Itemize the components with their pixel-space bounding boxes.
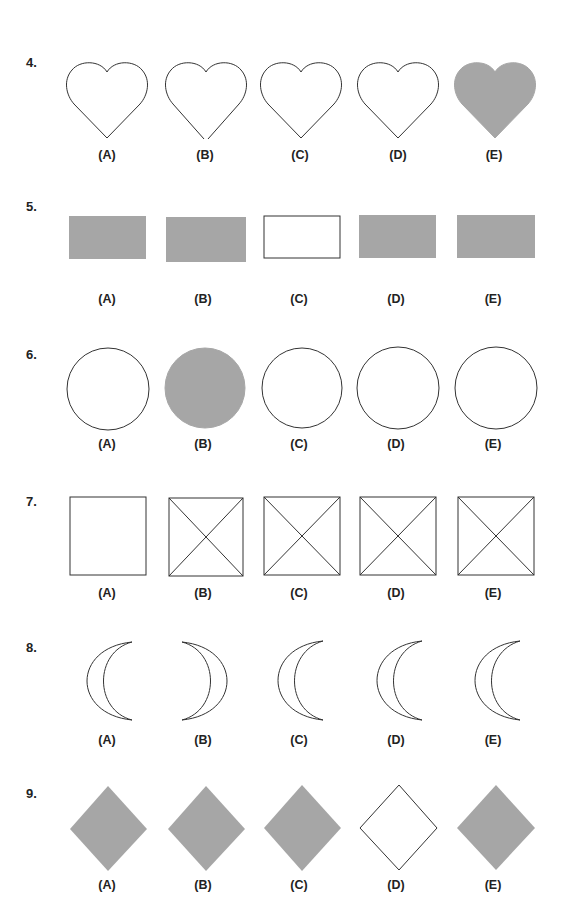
option-label: (C) [279, 586, 319, 600]
option-label: (D) [376, 733, 416, 747]
crescent-d[interactable] [377, 641, 422, 720]
crescent-b[interactable] [182, 642, 227, 720]
option-label: (E) [473, 292, 513, 306]
crescent-e[interactable] [475, 641, 520, 720]
option-label: (C) [279, 878, 319, 892]
diamond-b[interactable] [168, 786, 245, 871]
square-c[interactable] [264, 497, 340, 575]
figures-canvas [0, 0, 561, 916]
heart-d[interactable] [357, 63, 438, 138]
option-label: (A) [87, 292, 127, 306]
diamond-a[interactable] [70, 786, 147, 871]
heart-a[interactable] [66, 63, 147, 138]
question-number: 8. [26, 640, 37, 655]
circle-e[interactable] [455, 347, 537, 429]
option-label: (A) [87, 878, 127, 892]
option-label: (E) [473, 437, 513, 451]
option-label: (B) [183, 878, 223, 892]
question-number: 9. [26, 786, 37, 801]
question-5-figures [69, 215, 535, 262]
option-label: (C) [279, 733, 319, 747]
rect-c[interactable] [264, 216, 340, 258]
option-label: (B) [183, 437, 223, 451]
option-label: (B) [183, 733, 223, 747]
question-number: 6. [26, 347, 37, 362]
option-label: (A) [87, 586, 127, 600]
option-label: (C) [279, 292, 319, 306]
option-label: (D) [376, 586, 416, 600]
rect-d[interactable] [359, 215, 436, 258]
heart-b[interactable] [165, 63, 246, 139]
question-6-figures [67, 347, 537, 430]
option-label: (C) [280, 148, 320, 162]
square-a[interactable] [70, 497, 146, 575]
question-number: 5. [26, 199, 37, 214]
circle-d[interactable] [357, 347, 439, 429]
option-label: (C) [279, 437, 319, 451]
question-7-figures [70, 497, 534, 576]
rect-b[interactable] [166, 217, 246, 262]
question-8-figures [87, 641, 520, 720]
option-label: (B) [183, 586, 223, 600]
rect-a[interactable] [69, 216, 146, 259]
square-e[interactable] [458, 497, 534, 575]
option-label: (D) [376, 292, 416, 306]
option-label: (B) [183, 292, 223, 306]
rect-e[interactable] [457, 215, 535, 258]
option-label: (B) [185, 148, 225, 162]
option-label: (E) [473, 586, 513, 600]
question-4-figures [66, 63, 535, 139]
option-label: (D) [376, 437, 416, 451]
circle-b[interactable] [165, 348, 245, 428]
option-label: (E) [474, 148, 514, 162]
circle-c[interactable] [262, 348, 342, 428]
question-number: 4. [26, 55, 37, 70]
diamond-c[interactable] [264, 785, 341, 871]
circle-a[interactable] [67, 348, 149, 430]
option-label: (A) [87, 733, 127, 747]
option-label: (E) [473, 733, 513, 747]
option-label: (A) [87, 148, 127, 162]
option-label: (D) [378, 148, 418, 162]
diamond-e[interactable] [457, 785, 535, 870]
question-9-figures [70, 785, 535, 871]
heart-c[interactable] [260, 63, 341, 138]
crescent-c[interactable] [278, 641, 323, 720]
option-label: (A) [87, 437, 127, 451]
square-b[interactable] [169, 498, 243, 576]
diamond-d[interactable] [360, 785, 437, 870]
question-number: 7. [26, 494, 37, 509]
option-label: (D) [376, 878, 416, 892]
crescent-a[interactable] [87, 642, 132, 720]
heart-e[interactable] [454, 63, 535, 138]
square-d[interactable] [360, 497, 436, 575]
option-label: (E) [473, 878, 513, 892]
